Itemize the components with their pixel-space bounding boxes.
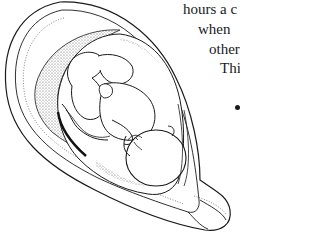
text-fragment-1: hours a c	[183, 2, 237, 17]
text-fragment-3: other	[209, 42, 240, 57]
bullet-dot	[235, 105, 240, 110]
text-fragment-4: This	[220, 61, 240, 76]
fetus-hand	[99, 84, 112, 98]
text-fragment-2: when	[198, 22, 231, 37]
fetus-head	[126, 130, 186, 186]
